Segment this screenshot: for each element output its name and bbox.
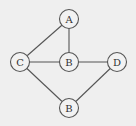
graph-diagram: ACBDB xyxy=(0,0,136,126)
node-label: C xyxy=(16,57,24,68)
graph-nodes: ACBDB xyxy=(11,10,127,118)
node-b: B xyxy=(60,53,79,72)
node-a: A xyxy=(60,10,79,29)
node-label: A xyxy=(64,14,73,25)
node-c: C xyxy=(11,53,30,72)
node-d: D xyxy=(108,53,127,72)
node-label: D xyxy=(113,57,121,68)
node-label: B xyxy=(65,57,72,68)
node-label: B xyxy=(65,103,72,114)
node-b: B xyxy=(60,99,79,118)
edge-c-b xyxy=(20,62,69,108)
